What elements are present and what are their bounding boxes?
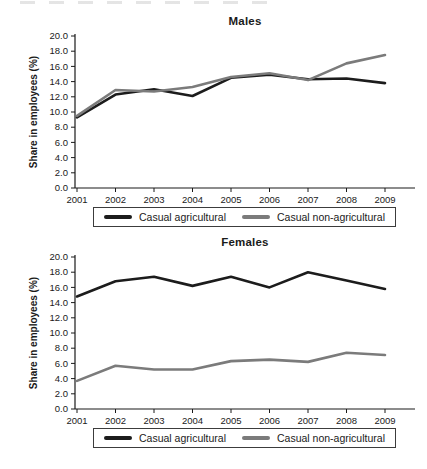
svg-text:8.0: 8.0 bbox=[55, 342, 68, 353]
svg-text:2009: 2009 bbox=[374, 415, 395, 425]
females-y-axis-label: Share in employees (%) bbox=[28, 277, 39, 389]
svg-text:18.0: 18.0 bbox=[50, 266, 69, 277]
females-chart-title: Females bbox=[75, 236, 415, 251]
svg-text:10.0: 10.0 bbox=[50, 327, 69, 338]
svg-text:2003: 2003 bbox=[143, 415, 164, 425]
svg-text:2002: 2002 bbox=[105, 415, 126, 425]
svg-text:2006: 2006 bbox=[259, 194, 280, 204]
svg-text:0.0: 0.0 bbox=[55, 182, 68, 193]
svg-text:2003: 2003 bbox=[143, 194, 164, 204]
svg-text:20.0: 20.0 bbox=[50, 30, 69, 41]
males-plot-area: 0.02.04.06.08.010.012.014.016.018.020.02… bbox=[0, 30, 427, 204]
casual-non-agricultural-line-swatch bbox=[242, 436, 270, 440]
svg-text:8.0: 8.0 bbox=[55, 121, 68, 132]
males-chart: Males Share in employees (%) 0.02.04.06.… bbox=[0, 15, 427, 227]
svg-text:2005: 2005 bbox=[220, 415, 241, 425]
svg-text:4.0: 4.0 bbox=[55, 152, 68, 163]
females-plot-area: 0.02.04.06.08.010.012.014.016.018.020.02… bbox=[0, 251, 427, 425]
legend-label-casual-agricultural: Casual agricultural bbox=[139, 432, 226, 444]
svg-text:10.0: 10.0 bbox=[50, 106, 69, 117]
legend-item-casual-agricultural: Casual agricultural bbox=[104, 432, 226, 444]
svg-text:14.0: 14.0 bbox=[50, 297, 69, 308]
svg-text:2009: 2009 bbox=[374, 194, 395, 204]
svg-text:2001: 2001 bbox=[66, 194, 87, 204]
svg-text:12.0: 12.0 bbox=[50, 91, 69, 102]
males-y-axis-label: Share in employees (%) bbox=[28, 56, 39, 168]
legend-item-casual-agricultural: Casual agricultural bbox=[104, 211, 226, 223]
svg-text:2004: 2004 bbox=[182, 194, 203, 204]
svg-text:2005: 2005 bbox=[220, 194, 241, 204]
svg-text:16.0: 16.0 bbox=[50, 61, 69, 72]
svg-text:2008: 2008 bbox=[336, 194, 357, 204]
casual-non-agricultural-line-swatch bbox=[242, 215, 270, 219]
cropped-text-remnant bbox=[20, 1, 270, 4]
females-chart: Females Share in employees (%) 0.02.04.0… bbox=[0, 236, 427, 448]
legend-item-casual-non-agricultural: Casual non-agricultural bbox=[242, 432, 385, 444]
casual-agricultural-line-swatch bbox=[104, 436, 132, 440]
svg-text:4.0: 4.0 bbox=[55, 373, 68, 384]
legend-label-casual-non-agricultural: Casual non-agricultural bbox=[277, 211, 385, 223]
svg-text:20.0: 20.0 bbox=[50, 251, 69, 262]
svg-text:2007: 2007 bbox=[297, 194, 318, 204]
svg-text:16.0: 16.0 bbox=[50, 282, 69, 293]
legend-label-casual-non-agricultural: Casual non-agricultural bbox=[277, 432, 385, 444]
svg-text:2007: 2007 bbox=[297, 415, 318, 425]
legend-label-casual-agricultural: Casual agricultural bbox=[139, 211, 226, 223]
svg-text:2.0: 2.0 bbox=[55, 388, 68, 399]
svg-text:6.0: 6.0 bbox=[55, 358, 68, 369]
females-legend: Casual agricultural Casual non-agricultu… bbox=[93, 428, 396, 448]
svg-text:2004: 2004 bbox=[182, 415, 203, 425]
males-chart-title: Males bbox=[75, 15, 415, 30]
svg-text:12.0: 12.0 bbox=[50, 312, 69, 323]
svg-text:14.0: 14.0 bbox=[50, 76, 69, 87]
svg-text:0.0: 0.0 bbox=[55, 403, 68, 414]
svg-text:18.0: 18.0 bbox=[50, 45, 69, 56]
svg-text:2001: 2001 bbox=[66, 415, 87, 425]
legend-item-casual-non-agricultural: Casual non-agricultural bbox=[242, 211, 385, 223]
svg-text:2006: 2006 bbox=[259, 415, 280, 425]
svg-text:2002: 2002 bbox=[105, 194, 126, 204]
svg-text:6.0: 6.0 bbox=[55, 137, 68, 148]
casual-agricultural-line-swatch bbox=[104, 215, 132, 219]
males-legend-row: Casual agricultural Casual non-agricultu… bbox=[0, 207, 427, 227]
svg-text:2.0: 2.0 bbox=[55, 167, 68, 178]
svg-text:2008: 2008 bbox=[336, 415, 357, 425]
females-legend-row: Casual agricultural Casual non-agricultu… bbox=[0, 428, 427, 448]
males-legend: Casual agricultural Casual non-agricultu… bbox=[93, 207, 396, 227]
